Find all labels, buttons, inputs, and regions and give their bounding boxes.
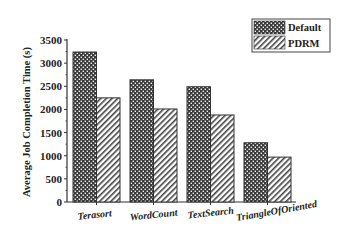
x-tick-label: WordCount — [129, 206, 179, 222]
legend-label-default: Default — [288, 22, 322, 33]
legend: Default PDRM — [252, 19, 330, 52]
y-tick-label: 0 — [57, 196, 63, 208]
bar-default-textsearch — [187, 87, 211, 202]
bars — [73, 52, 291, 202]
y-tick-label: 3000 — [40, 57, 63, 69]
x-tick-label: TextSearch — [187, 205, 235, 221]
y-ticks: 0500100015002000250030003500 — [40, 34, 67, 208]
legend-swatch-pdrm — [254, 36, 285, 49]
y-tick-label: 2500 — [40, 80, 63, 92]
bar-pdrm-wordcount — [154, 109, 178, 202]
x-tick-label: Terasort — [77, 207, 113, 222]
bar-pdrm-triangleoforiented — [268, 157, 292, 202]
bar-default-triangleoforiented — [244, 143, 268, 202]
bar-chart: Average Job Completion Time (s) 05001000… — [0, 0, 350, 232]
bar-pdrm-textsearch — [211, 115, 235, 202]
y-tick-label: 2000 — [40, 103, 63, 115]
y-tick-label: 1000 — [40, 150, 63, 162]
y-tick-label: 500 — [46, 173, 63, 185]
bar-default-wordcount — [130, 80, 154, 202]
legend-swatch-default — [254, 21, 285, 34]
bar-pdrm-terasort — [97, 98, 121, 202]
y-tick-label: 1500 — [40, 127, 63, 139]
bar-default-terasort — [73, 52, 97, 202]
legend-label-pdrm: PDRM — [288, 38, 320, 49]
y-tick-label: 3500 — [40, 34, 63, 46]
y-axis-label: Average Job Completion Time (s) — [21, 47, 33, 197]
